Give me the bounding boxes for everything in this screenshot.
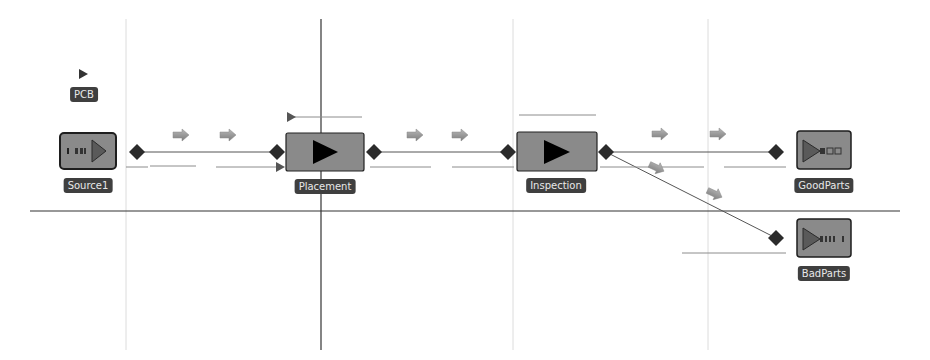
node-inspection[interactable] (517, 132, 597, 171)
port-source1-out[interactable] (129, 144, 145, 160)
port-inspection-out[interactable] (598, 144, 614, 160)
node-label-badparts[interactable]: BadParts (798, 266, 850, 281)
placement-input-marker-icon (287, 112, 296, 122)
grid-lines (126, 19, 708, 350)
port-placement-in[interactable] (269, 144, 285, 160)
entity-label-pcb[interactable]: PCB (70, 87, 98, 102)
flow-arrow-icon (652, 128, 668, 140)
entity-marker-icon (79, 69, 88, 79)
flow-arrow-icon (452, 129, 468, 141)
node-placement[interactable] (286, 133, 364, 171)
diagram-canvas[interactable] (0, 0, 930, 360)
node-label-inspection[interactable]: Inspection (526, 178, 586, 193)
node-source1[interactable] (60, 133, 116, 169)
flow-arrows (173, 128, 726, 203)
node-label-goodparts[interactable]: GoodParts (794, 178, 853, 193)
port-inspection-in[interactable] (500, 144, 516, 160)
node-label-placement[interactable]: Placement (295, 179, 356, 194)
port-goodparts-in[interactable] (768, 144, 784, 160)
flow-arrow-icon (220, 129, 236, 141)
node-label-source1[interactable]: Source1 (64, 178, 113, 193)
flow-arrow-icon (407, 129, 423, 141)
node-badparts[interactable] (797, 219, 851, 257)
connections (137, 152, 776, 238)
port-placement-out[interactable] (366, 144, 382, 160)
port-badparts-in[interactable] (768, 230, 784, 246)
connection-inspection-badparts[interactable] (606, 152, 776, 238)
node-goodparts[interactable] (797, 131, 851, 169)
placement-queue-marker-icon (276, 162, 285, 172)
flow-arrow-icon (710, 128, 726, 140)
flow-arrow-icon (173, 129, 189, 141)
